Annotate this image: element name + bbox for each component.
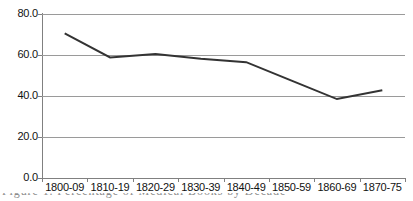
- x-axis-tick: [269, 178, 270, 182]
- x-axis-tick: [133, 178, 134, 182]
- x-axis-tick: [314, 178, 315, 182]
- y-axis-tick: [38, 14, 42, 15]
- x-axis-tick-label: 1850-59: [269, 181, 314, 193]
- x-axis-tick-label: 1840-49: [224, 181, 269, 193]
- y-axis-tick: [38, 137, 42, 138]
- x-axis-tick-label: 1870-75: [360, 181, 405, 193]
- x-axis-tick: [87, 178, 88, 182]
- x-axis-tick-label: 1830-39: [178, 181, 223, 193]
- x-axis-tick: [360, 178, 361, 182]
- line-chart-figure: 0.020.040.060.080.0 Figure 1. Percentage…: [0, 0, 413, 201]
- x-axis-tick: [224, 178, 225, 182]
- y-axis-tick: [38, 96, 42, 97]
- data-series-line: [0, 0, 413, 201]
- x-axis-tick-label: 1860-69: [314, 181, 359, 193]
- x-axis-tick-label: 1800-09: [42, 181, 87, 193]
- y-axis-tick: [38, 55, 42, 56]
- x-axis-tick-label: 1820-29: [133, 181, 178, 193]
- x-axis-tick: [405, 178, 406, 182]
- figure-caption-clipped: Figure 1. Percentage of Medical Books by…: [0, 193, 413, 201]
- x-axis-tick: [42, 178, 43, 182]
- x-axis-tick: [178, 178, 179, 182]
- figure-caption-text: Figure 1. Percentage of Medical Books by…: [2, 193, 286, 198]
- x-axis-tick-label: 1810-19: [87, 181, 132, 193]
